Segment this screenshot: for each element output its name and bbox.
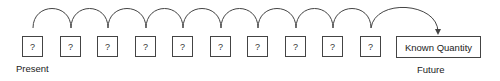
- arc-4: [146, 9, 183, 29]
- unknown-box-9: ?: [322, 36, 343, 57]
- present-label: Present: [16, 63, 49, 74]
- unknown-box-4: ?: [135, 36, 156, 57]
- arc-7: [258, 9, 296, 29]
- arc-3: [108, 9, 146, 29]
- arc-6: [221, 9, 258, 29]
- arc-9: [333, 9, 371, 29]
- arc-5: [183, 9, 221, 29]
- unknown-box-7: ?: [247, 36, 268, 57]
- arc-to-known-arrow: [371, 7, 438, 32]
- unknown-box-6: ?: [210, 36, 231, 57]
- known-quantity-box: Known Quantity: [396, 36, 481, 58]
- arc-1: [33, 9, 71, 29]
- unknown-box-5: ?: [172, 36, 193, 57]
- arc-2: [71, 9, 108, 29]
- arc-8: [296, 9, 333, 29]
- future-label: Future: [417, 64, 444, 75]
- unknown-box-2: ?: [60, 36, 81, 57]
- unknown-box-3: ?: [97, 36, 118, 57]
- unknown-box-8: ?: [285, 36, 306, 57]
- unknown-box-1: ?: [22, 36, 43, 57]
- unknown-box-10: ?: [360, 36, 381, 57]
